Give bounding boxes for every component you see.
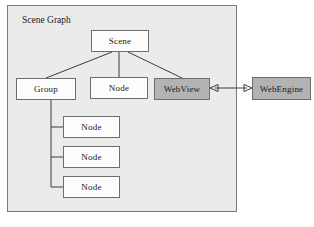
node-scene[interactable]: Scene bbox=[91, 30, 149, 52]
node-webengine-label: WebEngine bbox=[260, 84, 304, 94]
node-group[interactable]: Group bbox=[16, 78, 76, 100]
node-child-node-2-label: Node bbox=[81, 152, 101, 162]
node-child-node-3-label: Node bbox=[81, 182, 101, 192]
node-child-node-1[interactable]: Node bbox=[63, 116, 120, 138]
node-webview-label: WebView bbox=[164, 84, 201, 94]
node-scene-label: Scene bbox=[109, 36, 132, 46]
node-node-main-label: Node bbox=[109, 83, 129, 93]
node-webengine[interactable]: WebEngine bbox=[252, 77, 311, 100]
node-child-node-2[interactable]: Node bbox=[63, 146, 120, 168]
node-child-node-1-label: Node bbox=[81, 122, 101, 132]
node-webview[interactable]: WebView bbox=[154, 78, 210, 100]
node-group-label: Group bbox=[34, 84, 58, 94]
arrowhead-right bbox=[244, 85, 252, 92]
scene-graph-diagram: Scene Graph Scene Group Node WebView Web… bbox=[0, 0, 314, 227]
scene-graph-title: Scene Graph bbox=[22, 15, 71, 26]
node-node-main[interactable]: Node bbox=[90, 77, 148, 99]
node-child-node-3[interactable]: Node bbox=[63, 176, 120, 198]
